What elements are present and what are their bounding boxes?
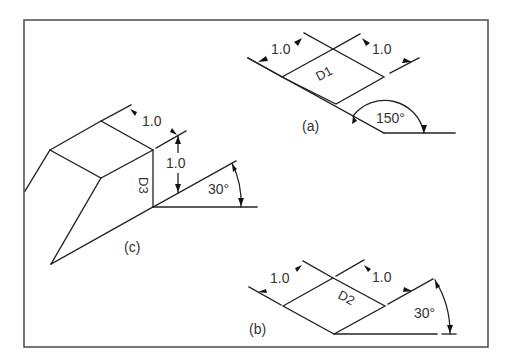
panel-a-dim-right: 1.0 [372, 41, 392, 57]
panel-c-angle: 30° [208, 181, 229, 197]
panel-c-dim-top: 1.0 [142, 113, 162, 129]
arrow-icon [362, 38, 370, 46]
arrow-icon [258, 56, 268, 62]
panel-a: 1.0 1.0 D1 150° (a) [248, 33, 455, 134]
panel-c-inner-edge [51, 178, 101, 264]
panel-a-caption: (a) [302, 118, 319, 134]
panel-a-face-label: D1 [313, 63, 335, 84]
panel-c: 1.0 1.0 D3 30° (c) [25, 105, 257, 264]
panel-a-ext-top-right [333, 34, 360, 49]
panel-b-ext-top-right [336, 260, 364, 276]
panel-b-dim-left: 1.0 [270, 270, 290, 286]
panel-c-ext-top [101, 105, 131, 121]
panel-c-face-label: D3 [136, 177, 151, 194]
arrow-icon [170, 128, 177, 135]
technical-drawing: 1.0 1.0 D1 150° (a) 1.0 1.0 D3 [0, 0, 508, 359]
panel-c-left-edge [25, 150, 50, 191]
panel-b: 1.0 1.0 D2 30° (b) [249, 260, 456, 337]
panel-b-angle: 30° [414, 305, 435, 321]
arrow-icon [130, 109, 137, 116]
panel-c-dim-vertical: 1.0 [166, 155, 186, 171]
panel-b-face-label: D2 [336, 287, 358, 308]
panel-b-rhombus-d2 [283, 278, 385, 334]
panel-a-ext-top-left [304, 33, 333, 49]
arrow-icon [421, 125, 427, 133]
arrow-icon [238, 198, 244, 206]
panel-b-30deg-line [388, 279, 433, 304]
arrow-icon [175, 184, 181, 192]
panel-b-caption: (b) [249, 321, 266, 337]
panel-a-dim-left: 1.0 [271, 41, 291, 57]
drawing-frame [24, 20, 488, 347]
panel-a-angle: 150° [376, 110, 405, 126]
panel-c-caption: (c) [124, 239, 140, 255]
panel-b-ext-top-left [303, 261, 333, 278]
panel-c-top-face [50, 121, 153, 178]
panel-c-ext-right [156, 131, 186, 148]
arrow-icon [364, 265, 371, 272]
arrow-icon [447, 325, 453, 333]
arrow-icon [232, 164, 237, 172]
arrow-icon [294, 38, 302, 46]
arrow-icon [295, 265, 302, 272]
panel-b-dim-right: 1.0 [372, 269, 392, 285]
panel-c-bottom-edge [51, 207, 153, 264]
